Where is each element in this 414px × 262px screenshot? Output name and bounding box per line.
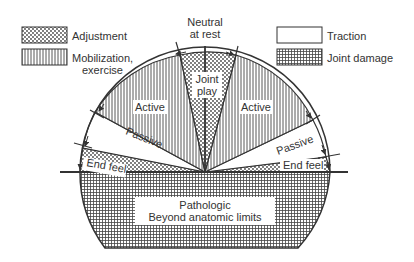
adjustment-swatch [22, 27, 67, 43]
legend-mobilization-label: Mobilization, [72, 52, 133, 64]
neutral-label: Neutral [187, 16, 222, 28]
joint-play-label-2: play [197, 85, 218, 97]
active-right-label: Active [241, 101, 271, 113]
pathologic-label: Pathologic [179, 199, 231, 211]
end-feel-right-label: End feel [283, 159, 323, 171]
legend-traction-label: Traction [327, 30, 366, 42]
mobilization-swatch [22, 49, 67, 65]
joint-play-label: Joint [195, 73, 218, 85]
active-left-label: Active [135, 101, 165, 113]
beyond-limits-label: Beyond anatomic limits [148, 211, 262, 223]
range-of-motion-diagram: Adjustment Mobilization, exercise Tracti… [0, 0, 414, 262]
legend-joint-damage-label: Joint damage [327, 52, 393, 64]
joint-damage-swatch [277, 49, 322, 65]
traction-swatch [277, 27, 322, 43]
legend-adjustment-label: Adjustment [72, 30, 127, 42]
legend-exercise-label: exercise [82, 64, 123, 76]
at-rest-label: at rest [190, 28, 221, 40]
